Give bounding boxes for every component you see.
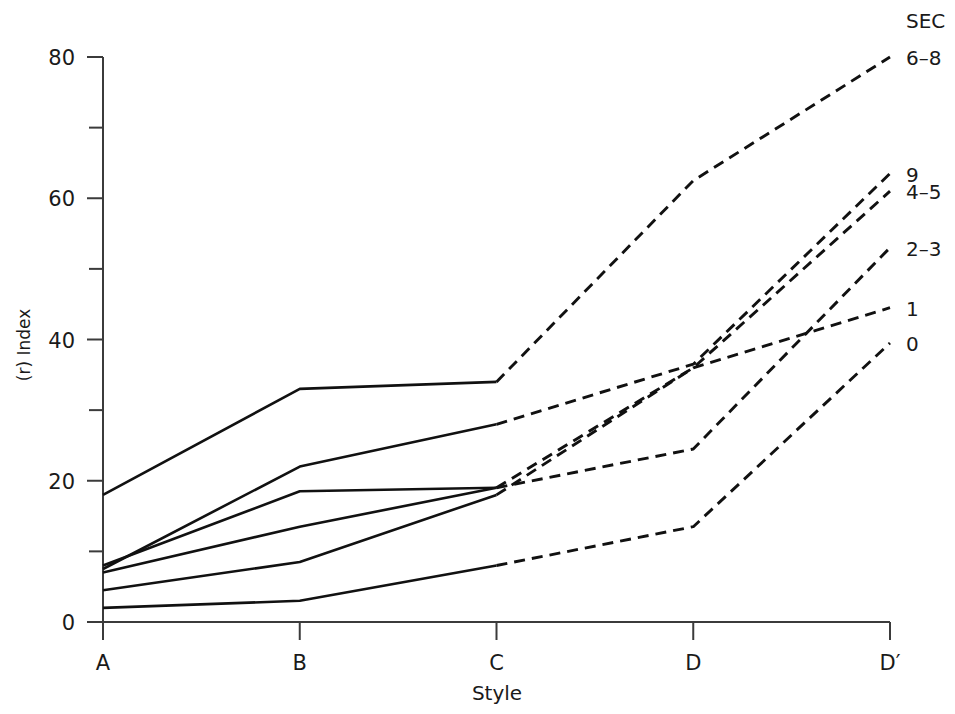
x-tick-label-C: C: [489, 651, 504, 675]
y-tick-labels: 020406080: [48, 46, 75, 635]
x-tick-label-B: B: [293, 651, 307, 675]
series-line-solid-1: [103, 424, 497, 569]
legend-label-45: 4–5: [906, 180, 941, 204]
x-axis-title: Style: [472, 681, 522, 705]
x-tick-label-D: D′: [880, 651, 901, 675]
x-tick-labels: ABCDD′: [96, 651, 901, 675]
y-tick-label: 0: [62, 611, 75, 635]
series-line-dashed-1: [497, 174, 891, 425]
y-axis-title: (r) Index: [14, 309, 34, 381]
x-tick-label-A: A: [96, 651, 111, 675]
y-tick-label: 20: [48, 470, 75, 494]
y-tick-label: 40: [48, 329, 75, 353]
x-tick-label-D: D: [685, 651, 701, 675]
axis-ticks: [87, 57, 890, 640]
legend-label-1: 1: [906, 297, 919, 321]
series-lines: [103, 57, 890, 608]
y-tick-label: 80: [48, 46, 75, 70]
chart-container: 020406080 ABCDD′ SEC6–894–52–310 Style (…: [0, 0, 955, 714]
legend: SEC6–894–52–310: [906, 9, 945, 356]
legend-label-0: 0: [906, 332, 919, 356]
series-line-solid-3: [103, 488, 497, 573]
series-line-dashed-5: [497, 343, 891, 566]
legend-label-68: 6–8: [906, 46, 941, 70]
series-line-dashed-0: [497, 57, 891, 382]
legend-label-23: 2–3: [906, 237, 941, 261]
line-chart: 020406080 ABCDD′ SEC6–894–52–310 Style (…: [0, 0, 955, 714]
legend-title: SEC: [906, 9, 945, 33]
axes: [103, 57, 890, 640]
series-line-dashed-2: [497, 191, 891, 488]
y-tick-label: 60: [48, 187, 75, 211]
series-line-solid-5: [103, 566, 497, 608]
series-line-solid-0: [103, 382, 497, 495]
series-line-dashed-4: [497, 308, 891, 495]
